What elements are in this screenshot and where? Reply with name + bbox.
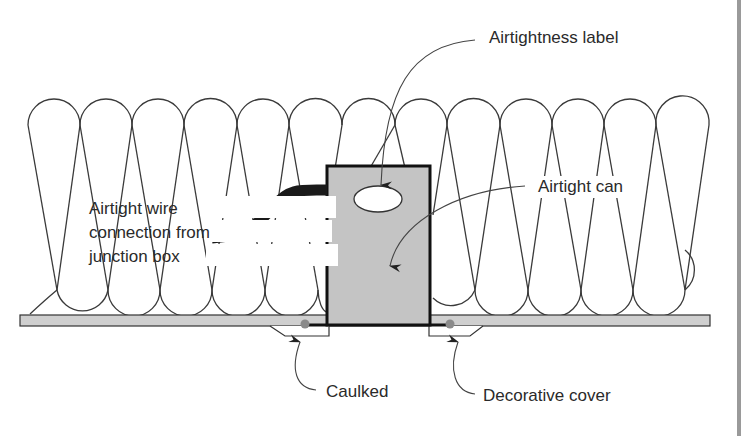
airtight-can-text: Airtight can — [538, 175, 623, 199]
wire-connection-text: Airtight wire connection from junction b… — [89, 197, 219, 269]
airtightness-label-leader — [381, 40, 475, 185]
page-edge-bar — [737, 0, 741, 436]
caulked-text: Caulked — [326, 380, 388, 404]
airtightness-label-oval — [354, 186, 402, 212]
airtight-can — [327, 166, 430, 325]
decorative-cover-text: Decorative cover — [483, 384, 611, 408]
decorative-cover-leader — [453, 342, 475, 394]
caulked-leader — [295, 342, 316, 390]
airtightness-label-text: Airtightness label — [489, 26, 618, 50]
